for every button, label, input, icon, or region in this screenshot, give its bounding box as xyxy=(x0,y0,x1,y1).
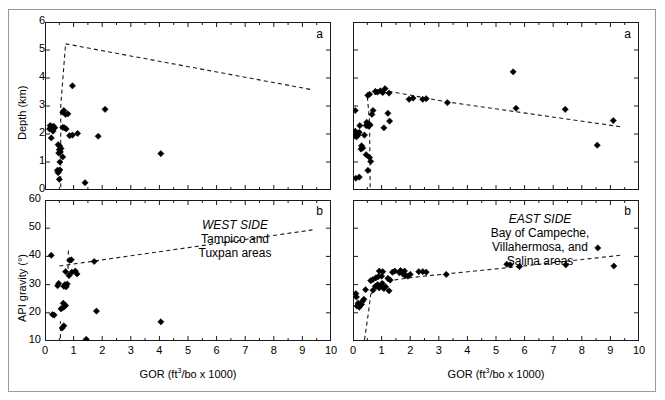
annotation-east-line-2: Salina areas xyxy=(445,254,635,268)
y-tick-label: 3 xyxy=(19,98,45,110)
x-tick-label: 2 xyxy=(398,344,422,356)
data-point xyxy=(82,180,88,186)
x-axis-label-east: GOR (ft3/bo x 1000) xyxy=(353,367,639,380)
data-point xyxy=(357,123,363,129)
x-tick-label: 3 xyxy=(119,344,143,356)
x-tick-label: 6 xyxy=(513,344,537,356)
trend-line-lower-envelope xyxy=(367,91,620,126)
x-axis-label-rest: /bo x 1000) xyxy=(181,368,236,380)
data-point xyxy=(510,69,516,75)
panel-letter-a: a xyxy=(624,27,631,41)
annotation-east-line-0: Bay of Campeche, xyxy=(445,226,635,240)
y-tick-label: 2 xyxy=(19,126,45,138)
annotation-west: WEST SIDE Tampico and Tuxpan areas xyxy=(145,218,325,260)
x-tick-label: 5 xyxy=(484,344,508,356)
panel-west-api: b WEST SIDE Tampico and Tuxpan areas xyxy=(45,200,331,341)
annotation-west-line-0: Tampico and xyxy=(145,232,325,246)
x-tick-label: 10 xyxy=(627,344,651,356)
y-tick-label: 1 xyxy=(19,154,45,166)
x-tick-label: 0 xyxy=(341,344,365,356)
data-point xyxy=(57,159,63,165)
x-tick-label: 1 xyxy=(370,344,394,356)
y-tick-label: 60 xyxy=(15,192,41,204)
panel-letter-b: b xyxy=(316,204,323,218)
data-point xyxy=(562,106,568,112)
y-tick-label: 40 xyxy=(15,248,41,260)
data-point xyxy=(95,133,101,139)
y-tick-label: 50 xyxy=(15,220,41,232)
data-point xyxy=(91,258,97,264)
plot-canvas-west-depth xyxy=(45,22,331,190)
data-point xyxy=(48,135,54,141)
x-tick-label: 0 xyxy=(33,344,57,356)
data-point xyxy=(361,132,367,138)
x-axis-label-west: GOR (ft3/bo x 1000) xyxy=(45,367,331,380)
data-point xyxy=(102,106,108,112)
trend-line-lower-envelope xyxy=(66,44,313,90)
data-point xyxy=(48,252,54,258)
x-tick-label: 7 xyxy=(541,344,565,356)
annotation-east-title: EAST SIDE xyxy=(445,212,635,226)
x-tick-label: 8 xyxy=(570,344,594,356)
x-tick-label: 2 xyxy=(90,344,114,356)
panel-letter-a: a xyxy=(316,27,323,41)
x-tick-label: 1 xyxy=(62,344,86,356)
data-point xyxy=(362,287,368,293)
x-tick-label: 7 xyxy=(233,344,257,356)
data-point xyxy=(386,90,392,96)
data-point xyxy=(381,125,387,131)
plot-canvas-east-depth xyxy=(353,22,639,190)
data-point xyxy=(56,176,62,182)
annotation-west-line-1: Tuxpan areas xyxy=(145,246,325,260)
data-point xyxy=(387,118,393,124)
data-point xyxy=(594,142,600,148)
data-point xyxy=(158,319,164,325)
x-tick-label: 5 xyxy=(176,344,200,356)
x-axis-label-rest: /bo x 1000) xyxy=(489,368,544,380)
data-point xyxy=(158,151,164,157)
data-point xyxy=(513,105,519,111)
x-tick-label: 4 xyxy=(455,344,479,356)
data-point xyxy=(443,271,449,277)
y-tick-label: 30 xyxy=(15,277,41,289)
figure-root: a Depth (km) 0123456 a b WEST SIDE Tampi… xyxy=(0,0,665,400)
y-tick-label: 5 xyxy=(19,42,45,54)
x-tick-label: 10 xyxy=(319,344,343,356)
x-tick-label: 9 xyxy=(290,344,314,356)
data-point xyxy=(610,117,616,123)
x-tick-label: 3 xyxy=(427,344,451,356)
annotation-east-line-1: Villahermosa, and xyxy=(445,240,635,254)
x-tick-label: 6 xyxy=(205,344,229,356)
data-point xyxy=(385,110,391,116)
x-axis-label-main: GOR (ft xyxy=(140,368,178,380)
x-tick-label: 9 xyxy=(598,344,622,356)
y-tick-label: 4 xyxy=(19,70,45,82)
data-point xyxy=(444,100,450,106)
annotation-west-title: WEST SIDE xyxy=(145,218,325,232)
data-point xyxy=(83,336,89,341)
annotation-east: EAST SIDE Bay of Campeche, Villahermosa,… xyxy=(445,212,635,268)
data-point xyxy=(69,83,75,89)
panel-west-depth: a xyxy=(45,22,331,190)
x-axis-label-main: GOR (ft xyxy=(448,368,486,380)
y-tick-label: 20 xyxy=(15,305,41,317)
data-point xyxy=(353,107,358,113)
panel-east-api: b EAST SIDE Bay of Campeche, Villahermos… xyxy=(353,200,639,341)
data-point xyxy=(93,308,99,314)
x-tick-label: 4 xyxy=(147,344,171,356)
panel-east-depth: a xyxy=(353,22,639,190)
x-tick-label: 8 xyxy=(262,344,286,356)
y-tick-label: 6 xyxy=(19,14,45,26)
